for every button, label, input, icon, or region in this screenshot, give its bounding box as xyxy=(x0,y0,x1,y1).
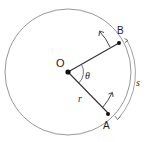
label-o: O xyxy=(56,57,65,69)
label-r: r xyxy=(78,93,82,104)
arc-arrowhead-top-icon xyxy=(125,39,129,43)
label-b: B xyxy=(117,25,124,36)
angle-arc xyxy=(79,64,84,83)
label-a: A xyxy=(103,120,110,131)
center-point-o xyxy=(65,69,70,74)
label-s: s xyxy=(136,77,140,88)
point-a xyxy=(106,112,110,116)
label-theta: θ xyxy=(85,70,90,81)
radius-line-ob xyxy=(68,43,119,72)
motion-arrow-a-icon xyxy=(103,93,112,107)
arc-length-diagram: O B A θ r s xyxy=(0,0,151,142)
motion-arrow-b-icon xyxy=(100,32,110,47)
point-b xyxy=(117,41,121,45)
